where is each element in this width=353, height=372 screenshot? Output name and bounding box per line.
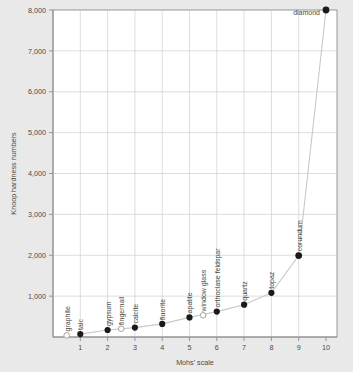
point-label-corundum: corundum — [296, 220, 303, 251]
knoop-hardness-scatter-chart: 1,000 2,000 3,000 4,000 5,000 6,000 7,00… — [0, 0, 353, 372]
y-tick-label: 7,000 — [28, 47, 46, 56]
point-label-orthoclase-feldspar: orthoclase feldspar — [214, 248, 222, 308]
y-tick-label: 1,000 — [28, 292, 46, 301]
marker-talc — [77, 331, 83, 337]
y-axis-title: Knoop hardness numbers — [9, 132, 18, 215]
x-tick-label: 2 — [106, 343, 110, 352]
marker-gypsum — [105, 327, 111, 333]
x-tick-label: 10 — [322, 343, 330, 352]
point-label-gypsum: gypsum — [105, 301, 113, 326]
x-tick-label: 5 — [188, 343, 192, 352]
marker-window-glass — [200, 313, 206, 319]
marker-corundum — [295, 252, 302, 259]
x-tick-label: 3 — [133, 343, 137, 352]
y-tick-label: 3,000 — [28, 210, 46, 219]
point-label-talc: talc — [77, 319, 84, 330]
point-label-quartz: quartz — [241, 281, 249, 301]
x-tick-label: 6 — [215, 343, 219, 352]
marker-graphite — [64, 333, 70, 339]
y-tick-label: 2,000 — [28, 251, 46, 260]
point-label-window-glass: window glass — [200, 269, 208, 312]
marker-apatite — [186, 314, 192, 320]
marker-quartz — [241, 302, 247, 308]
marker-fluorite — [159, 321, 165, 327]
chart-figure: 1,000 2,000 3,000 4,000 5,000 6,000 7,00… — [0, 0, 353, 372]
marker-topaz — [268, 290, 274, 296]
point-label-calcite: calcite — [132, 304, 139, 324]
x-tick-label: 9 — [297, 343, 301, 352]
x-tick-label: 8 — [269, 343, 273, 352]
y-tick-label: 8,000 — [28, 6, 46, 15]
x-tick-label: 7 — [242, 343, 246, 352]
x-axis-title: Mohs' scale — [176, 358, 214, 367]
point-label-apatite: apatite — [186, 292, 194, 313]
point-label-diamond: diamond — [293, 9, 320, 16]
marker-diamond — [323, 7, 330, 14]
marker-orthoclase-feldspar — [214, 309, 220, 315]
x-tick-label: 1 — [78, 343, 82, 352]
point-label-fingernail: fingernail — [118, 296, 126, 325]
y-tick-label: 4,000 — [28, 169, 46, 178]
point-label-fluorite: fluorite — [159, 299, 166, 320]
y-tick-label: 5,000 — [28, 128, 46, 137]
marker-calcite — [132, 325, 138, 331]
point-label-topaz: topaz — [268, 271, 276, 289]
x-tick-label: 4 — [160, 343, 164, 352]
y-tick-label: 6,000 — [28, 87, 46, 96]
marker-fingernail — [118, 326, 124, 332]
point-label-graphite: graphite — [64, 306, 72, 331]
